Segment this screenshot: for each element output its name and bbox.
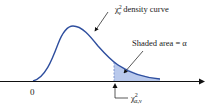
shaded-pointer-line (124, 51, 143, 73)
origin-label: 0 (30, 87, 35, 97)
critical-value-arrowhead (113, 83, 118, 88)
shaded-area-label: Shaded area = α (132, 38, 187, 48)
curve-pointer-line (95, 12, 108, 31)
chi-square-diagram: 0 χ2ν density curve Shaded area = α χ2α,… (0, 0, 209, 105)
curve-label: χ2ν density curve (114, 4, 169, 16)
critical-value-label: χ2α,ν (130, 92, 142, 104)
critical-label-sub: α,ν (134, 98, 142, 104)
curve-label-text: density curve (121, 4, 169, 14)
